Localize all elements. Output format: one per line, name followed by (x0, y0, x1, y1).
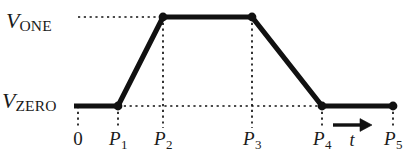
v-zero-variable: V (2, 88, 15, 113)
v-one-variable: V (6, 8, 19, 33)
x-axis-label-time: t (349, 131, 354, 149)
x-axis-label-p3-index: 3 (255, 137, 262, 152)
x-axis-label-p4-letter: P (313, 128, 325, 149)
guide-lines (78, 17, 393, 128)
y-axis-label-v-one: VONE (6, 10, 52, 32)
vertex-marker-p3 (248, 13, 257, 22)
waveform-figure: VONE VZERO 0 P1 P2 P3 P4 P5 t (0, 0, 413, 156)
x-axis-label-p5-letter: P (384, 128, 396, 149)
y-axis-label-v-zero: VZERO (2, 90, 57, 112)
vertex-marker-p1 (114, 102, 123, 111)
x-axis-label-p3-letter: P (243, 128, 255, 149)
vertex-marker-p4 (318, 102, 327, 111)
x-axis-label-p5: P5 (384, 129, 402, 148)
x-axis-label-p4-index: 4 (325, 137, 332, 152)
vertex-marker-p2 (159, 13, 168, 22)
v-zero-subscript: ZERO (15, 97, 56, 114)
vertex-marker-p5 (389, 102, 398, 111)
x-axis-label-p5-index: 5 (396, 137, 403, 152)
v-one-subscript: ONE (19, 17, 51, 34)
signal-trace (74, 17, 393, 106)
x-axis-label-p1-index: 1 (121, 137, 128, 152)
x-axis-label-origin: 0 (73, 129, 83, 148)
x-axis-label-p2-index: 2 (166, 137, 173, 152)
x-axis-label-p1: P1 (109, 129, 127, 148)
x-axis-label-p3: P3 (243, 129, 261, 148)
x-axis-label-p1-letter: P (109, 128, 121, 149)
x-axis-label-p4: P4 (313, 129, 331, 148)
x-axis-label-p2-letter: P (154, 128, 166, 149)
x-axis-label-p2: P2 (154, 129, 172, 148)
